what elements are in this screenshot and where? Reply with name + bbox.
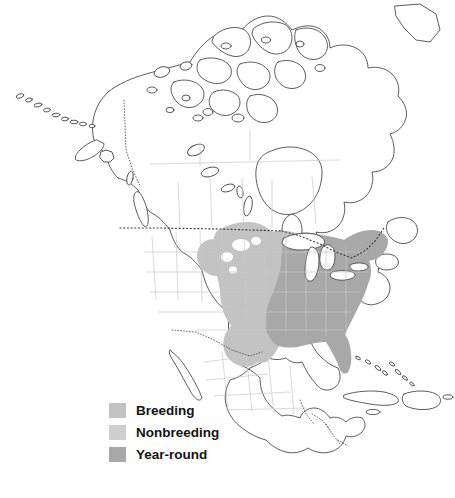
- legend-label-year-round: Year-round: [136, 447, 207, 462]
- legend-swatch-year-round: [109, 447, 126, 462]
- legend-label-nonbreeding: Nonbreeding: [136, 425, 219, 440]
- newfoundland-island: [387, 218, 418, 244]
- cuba-island: [344, 391, 398, 405]
- alaska-kodiak-island: [100, 150, 114, 162]
- legend-item-breeding: Breeding: [109, 402, 219, 418]
- legend-item-nonbreeding: Nonbreeding: [109, 424, 219, 440]
- legend-item-year-round: Year-round: [109, 446, 219, 462]
- hispaniola-island: [402, 391, 440, 410]
- range-legend: Breeding Nonbreeding Year-round: [109, 402, 219, 462]
- puerto-rico-island: [443, 395, 453, 399]
- aleutian-islands: [16, 93, 95, 128]
- greenland-outline: [395, 4, 440, 42]
- baja-california: [169, 350, 202, 400]
- legend-label-breeding: Breeding: [136, 403, 195, 418]
- legend-swatch-nonbreeding: [109, 425, 126, 440]
- north-america-map: [0, 0, 455, 498]
- caribbean-islands: [344, 356, 453, 415]
- legend-swatch-breeding: [109, 403, 126, 418]
- range-map-figure: Breeding Nonbreeding Year-round: [0, 0, 455, 498]
- jamaica-island: [366, 409, 380, 414]
- bahamas-islands: [355, 356, 415, 387]
